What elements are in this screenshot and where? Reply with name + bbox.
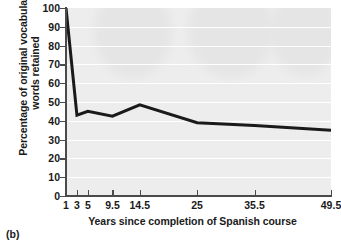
plot-area (66, 8, 331, 196)
y-axis-tick-labels: 1009080706050403020100 (24, 0, 60, 244)
y-axis-tick-mark (60, 46, 65, 47)
x-axis-tick-mark (66, 190, 67, 196)
y-axis-tick-mark (60, 177, 65, 178)
x-axis-tick-label: 9.5 (105, 199, 120, 211)
data-series-line (66, 8, 331, 196)
y-axis-tick-label: 40 (48, 115, 60, 127)
x-axis-tick-mark (88, 190, 89, 196)
x-axis-tick-label: 25 (191, 199, 203, 211)
x-axis-title: Years since completion of Spanish course (0, 215, 341, 227)
figure-panel-b: Percentage of original vocabulary words … (0, 0, 341, 244)
x-axis-line (65, 195, 332, 197)
y-axis-tick-label: 50 (48, 96, 60, 108)
y-axis-tick-mark (60, 196, 65, 197)
y-axis-tick-mark (60, 64, 65, 65)
y-axis-tick-mark (60, 83, 65, 84)
y-axis-tick-label: 10 (48, 171, 60, 183)
y-axis-tick-mark (60, 158, 65, 159)
y-axis-tick-mark (60, 121, 65, 122)
x-axis-tick-label: 5 (85, 199, 91, 211)
x-axis-tick-mark (77, 190, 78, 196)
y-axis-tick-label: 60 (48, 77, 60, 89)
y-axis-tick-label: 70 (48, 58, 60, 70)
x-axis-tick-label: 35.5 (244, 199, 264, 211)
y-axis-tick-label: 30 (48, 134, 60, 146)
x-axis-title-text: Years since completion of Spanish course (44, 215, 297, 227)
x-axis-tick-label: 49.5 (321, 199, 341, 211)
x-axis-tick-label: 3 (74, 199, 80, 211)
y-axis-tick-mark (60, 102, 65, 103)
y-axis-tick-label: 80 (48, 40, 60, 52)
x-axis-tick-label: 1 (63, 199, 69, 211)
y-axis-line (65, 7, 67, 197)
x-axis-tick-mark (255, 190, 256, 196)
y-axis-tick-label: 20 (48, 152, 60, 164)
y-axis-tick-label: 100 (42, 2, 60, 14)
x-axis-tick-mark (112, 190, 113, 196)
y-axis-tick-mark (60, 140, 65, 141)
x-axis-tick-mark (197, 190, 198, 196)
y-axis-tick-mark (60, 8, 65, 9)
x-axis-tick-mark (331, 190, 332, 196)
x-axis-tick-mark (140, 190, 141, 196)
panel-caption: (b) (6, 228, 19, 240)
x-axis-tick-label: 14.5 (130, 199, 150, 211)
y-axis-tick-label: 90 (48, 21, 60, 33)
y-axis-tick-mark (60, 27, 65, 28)
